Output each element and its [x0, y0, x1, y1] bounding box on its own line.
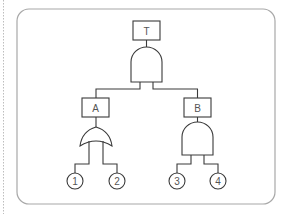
top-event-t: T	[133, 21, 160, 40]
basic-event-1: 1	[67, 173, 83, 189]
b-and-gate-icon	[182, 122, 213, 155]
event-a-label: A	[92, 103, 99, 114]
basic-event-4: 4	[210, 173, 226, 189]
event-b: B	[184, 98, 211, 117]
event-b-label: B	[194, 103, 201, 114]
basic-event-3: 3	[169, 173, 185, 189]
basic-event-4-label: 4	[215, 176, 221, 187]
fault-tree-diagram: T A B 1 2 3 4	[0, 0, 288, 214]
event-a: A	[82, 98, 109, 117]
basic-event-1-label: 1	[72, 176, 78, 187]
basic-event-3-label: 3	[174, 176, 180, 187]
top-and-gate-icon	[131, 47, 162, 82]
basic-event-2: 2	[109, 173, 125, 189]
top-event-label: T	[143, 26, 149, 37]
basic-event-2-label: 2	[114, 176, 120, 187]
